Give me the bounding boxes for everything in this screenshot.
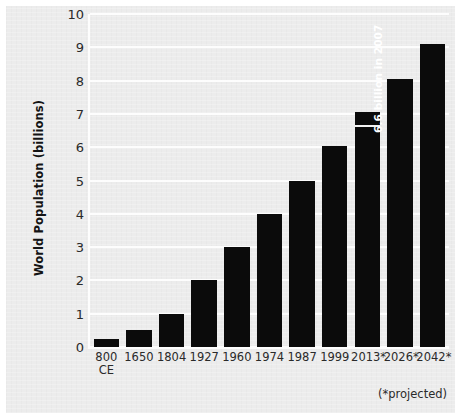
projected-footnote: (*projected) (378, 387, 447, 401)
x-axis-tick-label: 1999 (318, 351, 351, 364)
bar[interactable] (191, 280, 216, 347)
x-axis-tick-label: 1960 (221, 351, 254, 364)
bar[interactable] (289, 181, 314, 348)
x-axis-tick-label: 1927 (188, 351, 221, 364)
y-axis-tick-label: 0 (52, 341, 84, 354)
bar[interactable] (224, 247, 249, 347)
y-axis-tick-label: 2 (52, 274, 84, 287)
x-axis-tick-label: 2042* (416, 351, 449, 364)
gridline (90, 13, 449, 15)
bar-annotation-label: 6.6 billion in 2007 (372, 25, 384, 133)
bar[interactable] (322, 146, 347, 347)
x-axis-tick-label: 1650 (123, 351, 156, 364)
y-axis-tick-label: 8 (52, 74, 84, 87)
y-axis-tick-label: 9 (52, 41, 84, 54)
bar[interactable]: 6.6 billion in 2007 (355, 112, 380, 347)
x-axis-tick-label: 1804 (155, 351, 188, 364)
x-axis-tick-labels: 800CE16501804192719601974198719992013*20… (90, 351, 449, 385)
y-axis-tick-labels: 012345678910 (52, 6, 84, 413)
bar[interactable] (159, 314, 184, 347)
y-axis-tick-label: 6 (52, 141, 84, 154)
x-axis-tick-label: 1974 (253, 351, 286, 364)
y-axis-tick-label: 10 (52, 8, 84, 21)
bar[interactable] (420, 44, 445, 347)
x-axis-tick-label: 2013* (351, 351, 384, 364)
bar[interactable] (94, 339, 119, 347)
x-axis-tick-label: 800CE (90, 351, 123, 377)
y-axis-tick-label: 7 (52, 107, 84, 120)
gridline (90, 46, 449, 48)
plot-area: 6.6 billion in 2007 (90, 14, 449, 347)
x-axis-tick-label: 2026* (384, 351, 417, 364)
y-axis-tick-label: 1 (52, 307, 84, 320)
y-axis-tick-label: 5 (52, 174, 84, 187)
y-axis-tick-label: 4 (52, 207, 84, 220)
bar[interactable] (387, 79, 412, 347)
bar[interactable] (257, 214, 282, 347)
chart-figure: World Population (billions) 012345678910… (6, 6, 455, 413)
y-axis-title: World Population (billions) (28, 18, 50, 358)
bar[interactable] (126, 330, 151, 347)
x-axis-tick-label: 1987 (286, 351, 319, 364)
y-axis-tick-label: 3 (52, 241, 84, 254)
